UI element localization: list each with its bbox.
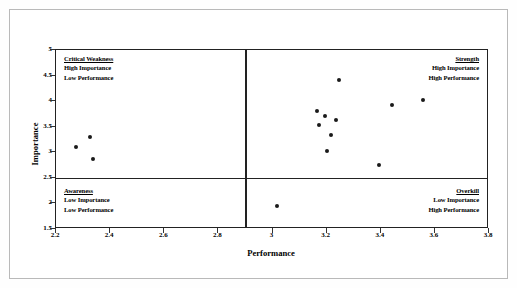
y-axis-tick-label: 5	[0, 45, 52, 53]
quadrant-line-1: High Importance	[64, 63, 113, 72]
quadrant-line-1: Low Importance	[64, 195, 113, 204]
y-axis-tick-label: 4.5	[0, 71, 52, 79]
y-axis-tick-label: 2.5	[0, 173, 52, 181]
data-point	[323, 114, 327, 118]
x-axis-tick-mark	[326, 228, 327, 233]
data-point	[334, 118, 338, 122]
data-point	[377, 163, 381, 167]
quadrant-line-2: High Performance	[428, 73, 479, 82]
x-axis-tick-mark	[55, 228, 56, 233]
data-point	[317, 123, 321, 127]
quadrant-divider-horizontal	[56, 178, 487, 179]
data-point	[315, 109, 319, 113]
y-axis-tick-label: 4	[0, 96, 52, 104]
plot-area: Critical Weakness High Importance Low Pe…	[55, 49, 488, 228]
x-axis-tick-mark	[109, 228, 110, 233]
quadrant-line-2: Low Performance	[64, 73, 113, 82]
quadrant-line-2: Low Performance	[64, 205, 113, 214]
x-axis-tick-mark	[488, 228, 489, 233]
quadrant-line-1: Low Importance	[428, 195, 479, 204]
quadrant-label-critical-weakness: Critical Weakness High Importance Low Pe…	[64, 54, 113, 82]
y-axis-tick-label: 3	[0, 147, 52, 155]
quadrant-title: Overkill	[428, 186, 479, 195]
data-point	[74, 145, 78, 149]
quadrant-divider-vertical	[245, 50, 246, 227]
quadrant-label-strength: Strength High Importance High Performanc…	[428, 54, 479, 82]
x-axis-tick-mark	[434, 228, 435, 233]
y-axis-tick-label: 3.5	[0, 122, 52, 130]
y-axis-tick-label: 1.5	[0, 224, 52, 232]
data-point	[337, 78, 341, 82]
quadrant-title: Awareness	[64, 186, 113, 195]
data-point	[275, 204, 279, 208]
quadrant-label-overkill: Overkill Low Importance High Performance	[428, 186, 479, 214]
quadrant-title: Critical Weakness	[64, 54, 113, 63]
importance-performance-chart: Importance Performance 1.522.533.544.55 …	[0, 0, 517, 288]
quadrant-title: Strength	[428, 54, 479, 63]
quadrant-line-2: High Performance	[428, 205, 479, 214]
x-axis-tick-mark	[163, 228, 164, 233]
data-point	[390, 103, 394, 107]
data-point	[88, 135, 92, 139]
quadrant-label-awareness: Awareness Low Importance Low Performance	[64, 186, 113, 214]
quadrant-line-1: High Importance	[428, 63, 479, 72]
data-point	[325, 149, 329, 153]
data-point	[329, 133, 333, 137]
data-point	[91, 157, 95, 161]
x-axis-tick-mark	[380, 228, 381, 233]
x-axis-tick-mark	[272, 228, 273, 233]
y-axis-tick-label: 2	[0, 198, 52, 206]
x-axis-title: Performance	[247, 248, 295, 258]
data-point	[421, 98, 425, 102]
x-axis-tick-mark	[217, 228, 218, 233]
